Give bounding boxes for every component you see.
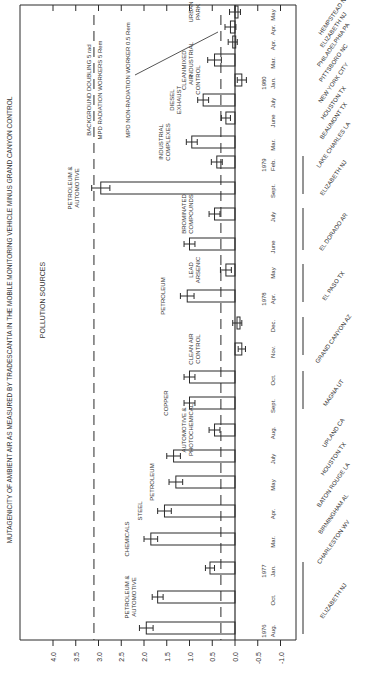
- svg-text:2.5: 2.5: [118, 652, 125, 662]
- svg-text:Apr.: Apr.: [270, 293, 276, 304]
- svg-text:COMPLEXES: COMPLEXES: [165, 123, 171, 160]
- svg-text:Apr.: Apr.: [270, 24, 276, 35]
- svg-text:MPD RADIATION WORKERS 5 Rem: MPD RADIATION WORKERS 5 Rem: [97, 40, 103, 139]
- svg-text:June: June: [270, 114, 276, 128]
- svg-text:July: July: [270, 212, 276, 223]
- svg-text:Aug.: Aug.: [270, 624, 276, 637]
- svg-text:ELIZABETH NJ: ELIZABETH NJ: [319, 159, 348, 197]
- svg-text:Sept.: Sept.: [270, 399, 276, 413]
- svg-text:COMPOUNDS: COMPOUNDS: [188, 194, 194, 234]
- location-labels: ELIZABETH NJCHARLESTON WVBIRMINGHAM ALBA…: [303, 0, 353, 634]
- svg-text:Apr.: Apr.: [270, 39, 276, 50]
- svg-text:Feb.: Feb.: [270, 159, 276, 171]
- svg-text:Jan.: Jan.: [270, 565, 276, 577]
- svg-text:PHOTOCHEMICAL: PHOTOCHEMICAL: [188, 403, 194, 456]
- svg-text:1979: 1979: [261, 158, 267, 172]
- svg-text:POLLUTION SOURCES: POLLUTION SOURCES: [39, 262, 46, 339]
- svg-text:1.5: 1.5: [164, 652, 171, 662]
- svg-text:EL DORADO AR: EL DORADO AR: [318, 211, 349, 252]
- svg-text:CLEAN AIR: CLEAN AIR: [188, 333, 194, 365]
- svg-text:CLEAN: CLEAN: [181, 70, 187, 90]
- svg-text:DIESEL: DIESEL: [169, 89, 175, 111]
- svg-text:4.0: 4.0: [50, 652, 57, 662]
- svg-text:BROMINATED: BROMINATED: [181, 194, 187, 234]
- svg-text:Aug.: Aug.: [270, 426, 276, 439]
- svg-text:BACKGROUND DOUBLING 5 rad: BACKGROUND DOUBLING 5 rad: [86, 44, 92, 135]
- svg-text:URBAN: URBAN: [188, 1, 194, 22]
- svg-text:0.5: 0.5: [209, 652, 216, 662]
- svg-text:2.0: 2.0: [141, 652, 148, 662]
- svg-text:May: May: [270, 479, 276, 490]
- svg-text:3.0: 3.0: [96, 652, 103, 662]
- mutagenicity-chart: 4.03.53.02.52.01.51.00.50.0-0.5-1.0 1976…: [0, 0, 370, 684]
- svg-text:PARK: PARK: [195, 4, 201, 20]
- svg-text:Dec.: Dec.: [270, 320, 276, 333]
- svg-text:May: May: [270, 9, 276, 20]
- svg-text:Jan.: Jan.: [270, 77, 276, 89]
- svg-text:July: July: [270, 454, 276, 465]
- svg-text:MIXED: MIXED: [181, 50, 187, 70]
- svg-text:AUTOMOTIVE: AUTOMOTIVE: [131, 577, 137, 617]
- svg-text:CONTROL: CONTROL: [195, 334, 201, 364]
- svg-text:Oct.: Oct.: [270, 374, 276, 385]
- svg-text:1.0: 1.0: [187, 652, 194, 662]
- svg-text:1978: 1978: [261, 292, 267, 306]
- svg-text:Sept.: Sept.: [270, 184, 276, 198]
- svg-text:1977: 1977: [261, 564, 267, 578]
- svg-text:AUTOMOTIVE: AUTOMOTIVE: [74, 168, 80, 208]
- category-labels: 1976Aug.Oct.1977Jan.Mar.Apr.MayJulyAug.S…: [261, 9, 276, 637]
- svg-text:COPPER: COPPER: [163, 390, 169, 416]
- titles: MUTAGENICITY OF AMBIENT AIR AS MEASURED …: [6, 22, 218, 543]
- svg-text:MUTAGENICITY OF AMBIENT AIR AS: MUTAGENICITY OF AMBIENT AIR AS MEASURED …: [6, 96, 13, 543]
- svg-text:PETROLEUM: PETROLEUM: [160, 277, 166, 314]
- svg-text:June: June: [270, 240, 276, 254]
- svg-text:ARSENIC: ARSENIC: [195, 256, 201, 283]
- svg-text:Nov.: Nov.: [270, 346, 276, 358]
- svg-text:CHEMICALS: CHEMICALS: [124, 521, 130, 556]
- svg-text:STEEL: STEEL: [137, 501, 143, 521]
- svg-text:AUTOMOTIVE &: AUTOMOTIVE &: [181, 407, 187, 452]
- svg-text:July: July: [270, 98, 276, 109]
- svg-text:MPD NON-RADIATION WORKER 0.5 R: MPD NON-RADIATION WORKER 0.5 Rem: [125, 22, 131, 138]
- svg-text:PETROLEUM: PETROLEUM: [149, 463, 155, 500]
- svg-text:EL PASO TX: EL PASO TX: [321, 270, 346, 301]
- svg-text:GRAND CANYON AZ: GRAND CANYON AZ: [314, 313, 352, 364]
- svg-text:1976: 1976: [261, 624, 267, 638]
- svg-text:Oct.: Oct.: [270, 594, 276, 605]
- reference-lines: [94, 15, 221, 640]
- svg-text:0.0: 0.0: [232, 652, 239, 662]
- svg-text:PETROLEUM &: PETROLEUM &: [67, 166, 73, 209]
- svg-text:CONTROL: CONTROL: [195, 65, 201, 95]
- svg-text:ELIZABETH NJ: ELIZABETH NJ: [319, 582, 348, 620]
- svg-text:PETROLEUM &: PETROLEUM &: [124, 575, 130, 618]
- svg-text:Mar.: Mar.: [270, 57, 276, 69]
- svg-text:1980: 1980: [261, 76, 267, 90]
- svg-text:Apr.: Apr.: [270, 508, 276, 519]
- svg-text:-1.0: -1.0: [278, 652, 285, 664]
- svg-text:-0.5: -0.5: [255, 652, 262, 664]
- svg-text:MAGNA UT: MAGNA UT: [322, 378, 345, 407]
- svg-text:3.5: 3.5: [73, 652, 80, 662]
- svg-text:Mar.: Mar.: [270, 139, 276, 151]
- svg-text:LEAD: LEAD: [188, 262, 194, 278]
- svg-text:INDUSTRIAL: INDUSTRIAL: [158, 124, 164, 160]
- svg-text:May: May: [270, 267, 276, 278]
- svg-text:Mar.: Mar.: [270, 536, 276, 548]
